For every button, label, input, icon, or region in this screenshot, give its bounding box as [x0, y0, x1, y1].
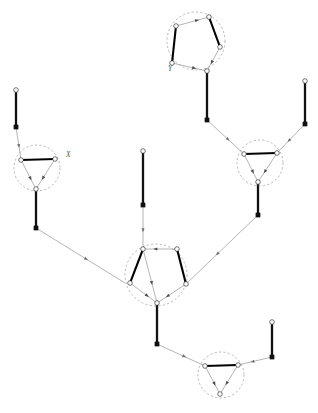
- cluster-bottom-triangle-thin-edge-1-arrowhead: [225, 381, 228, 385]
- cluster-bottom-triangle-ring: [198, 352, 244, 398]
- pendant-bottom-right-joint-square: [270, 355, 274, 359]
- cluster-right-triangle-node-rt-b: [275, 151, 280, 156]
- cluster-right-triangle-node-rt-c: [256, 180, 261, 185]
- cluster-top-pentagon-node-tp-a: [207, 15, 212, 20]
- pendant-right-top-joint-square: [303, 122, 307, 126]
- pendant-left-down-arrowhead: [84, 257, 88, 260]
- pendant-left-top-connector: [16, 127, 21, 160]
- cluster-middle-pentagon-node-mp-e: [128, 281, 133, 286]
- cluster-middle-pentagon-thin-edge-3: [157, 284, 186, 303]
- cluster-bottom-triangle-node-bt-c: [218, 392, 223, 397]
- pendant-top-pentagon-down-joint-square: [205, 118, 209, 122]
- cluster-top-pentagon-thin-edge-2-arrowhead: [211, 60, 214, 64]
- pendant-left-down-joint-square: [34, 226, 38, 230]
- cluster-left-triangle-node-lt-b: [53, 157, 58, 162]
- cluster-bottom-triangle-thin-edge-0-arrowhead: [212, 381, 215, 385]
- pendant-middle-down-arrowhead: [182, 354, 186, 357]
- cluster-bottom-triangle-thin-edge-0: [205, 366, 220, 394]
- cluster-middle-pentagon-node-mp-a: [141, 247, 146, 252]
- pendant-right-top-tip-node: [303, 79, 308, 84]
- cluster-top-pentagon-thin-edge-1: [172, 63, 207, 71]
- cluster-right-triangle-thin-edge-1: [258, 153, 277, 182]
- graph-canvas: XY: [0, 0, 318, 413]
- graph-diagram: XY: [0, 0, 318, 413]
- pendant-right-triangle-down-connector: [186, 215, 258, 284]
- pendant-top-pentagon-down-connector: [207, 120, 244, 154]
- cluster-top-pentagon-node-tp-e: [218, 45, 223, 50]
- cluster-middle-pentagon-thin-edge-1-arrowhead: [150, 281, 153, 285]
- cluster-top-pentagon-thick-edge-0: [172, 26, 176, 63]
- cluster-bottom-triangle-node-bt-a: [203, 364, 208, 369]
- cluster-middle-pentagon-thin-edge-3-arrowhead: [166, 294, 170, 298]
- cluster-top-pentagon-thin-edge-1-arrowhead: [192, 66, 196, 69]
- cluster-left-triangle-thin-edge-1-arrowhead: [42, 176, 46, 180]
- pendant-bottom-right-tip-node: [270, 320, 275, 325]
- cluster-bottom-triangle-thin-edge-1: [220, 365, 238, 394]
- pendant-left-top-tip-node: [14, 88, 19, 93]
- cluster-middle-pentagon-node-mp-d: [155, 301, 160, 306]
- cluster-middle-pentagon-thin-edge-1: [143, 249, 157, 303]
- pendant-center-top: [141, 151, 144, 249]
- pendant-left-top-arrowhead: [17, 144, 20, 148]
- cluster-left-triangle-thin-edge-1: [36, 159, 55, 189]
- cluster-left-triangle-thin-edge-0-arrowhead: [28, 176, 31, 180]
- pendant-center-top-joint-square: [141, 203, 145, 207]
- pendant-edges-layer: [16, 71, 305, 366]
- cluster-left-triangle-thick-edge-0: [21, 159, 55, 160]
- cluster-middle-pentagon-node-mp-c: [184, 282, 189, 287]
- cluster-right-triangle-thin-edge-1-arrowhead: [264, 169, 268, 173]
- cluster-top-pentagon-thick-edge-1: [209, 17, 220, 47]
- pendant-left-down: [36, 189, 125, 283]
- pendant-right-top-connector: [277, 124, 305, 153]
- cluster-top-pentagon-thin-edge-2: [207, 47, 220, 71]
- pendant-bottom-right-connector: [238, 357, 272, 365]
- pendant-right-top: [277, 81, 305, 153]
- pendant-right-triangle-down-joint-square: [256, 213, 260, 217]
- pendant-middle-down: [157, 303, 205, 366]
- cluster-top-pentagon-node-tp-d: [205, 69, 210, 74]
- cluster-left-triangle-thin-edge-0: [21, 160, 36, 189]
- cluster-bottom-triangle-thick-edge-0: [205, 365, 238, 366]
- cluster-middle-pentagon-node-mp-b: [175, 247, 180, 252]
- cluster-top-pentagon-node-tp-b: [174, 24, 179, 29]
- cluster-right-triangle-thin-edge-0: [244, 154, 258, 182]
- cluster-left-triangle-node-lt-c: [34, 187, 39, 192]
- cluster-middle-pentagon-thin-edge-0-arrowhead: [153, 247, 157, 250]
- pendant-top-pentagon-down: [207, 71, 244, 154]
- cluster-middle-pentagon-thin-edge-2-arrowhead: [145, 293, 149, 297]
- cluster-middle-pentagon-thick-edge-1: [177, 249, 186, 284]
- pendant-right-triangle-down: [186, 182, 258, 284]
- cluster-top-pentagon-thin-edge-0-arrowhead: [195, 19, 199, 22]
- pendant-center-top-arrowhead: [141, 228, 144, 232]
- cluster-top-pentagon-thin-edge-0: [176, 17, 209, 26]
- nodes-layer: [14, 15, 308, 397]
- pendant-center-top-tip-node: [141, 149, 146, 154]
- pendant-left-top-joint-square: [14, 125, 18, 129]
- cluster-left-triangle-ring: [14, 145, 60, 191]
- pendant-bottom-right: [238, 322, 272, 365]
- cluster-right-triangle-node-rt-a: [242, 152, 247, 157]
- pendant-middle-down-joint-square: [155, 342, 159, 346]
- cluster-middle-pentagon-thick-edge-0: [130, 249, 143, 283]
- pendant-middle-down-connector: [157, 344, 205, 366]
- cluster-rings-layer: [14, 12, 283, 398]
- cluster-left-triangle-node-lt-a: [19, 158, 24, 163]
- cluster-right-triangle-thin-edge-0-arrowhead: [251, 169, 254, 173]
- pendant-left-down-connector: [36, 228, 125, 283]
- cluster-bottom-triangle-node-bt-b: [236, 363, 241, 368]
- label-X: X: [65, 150, 71, 159]
- cluster-middle-pentagon-thin-edge-2: [130, 283, 157, 303]
- vertex-labels-layer: XY: [65, 64, 173, 159]
- cluster-right-triangle-thick-edge-0: [244, 153, 277, 154]
- cluster-edges-layer: [21, 17, 277, 394]
